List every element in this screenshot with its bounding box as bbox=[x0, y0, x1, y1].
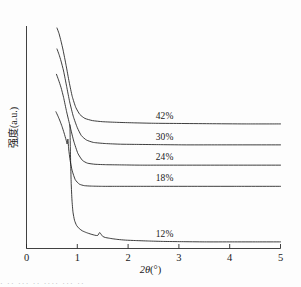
data-curve bbox=[70, 125, 281, 242]
x-axis-label-unit: (°) bbox=[150, 264, 161, 275]
series-label-24pct: 24% bbox=[156, 152, 174, 162]
x-tick-label: 4 bbox=[220, 252, 240, 264]
data-curve bbox=[57, 28, 281, 124]
x-axis-label-symbol: 2θ bbox=[140, 264, 150, 275]
y-axis-label: 强度(a.u.) bbox=[5, 88, 20, 168]
x-tick-label: 5 bbox=[271, 252, 291, 264]
series-label-18pct: 18% bbox=[156, 173, 174, 183]
series-label-30pct: 30% bbox=[156, 132, 174, 142]
series-label-42pct: 42% bbox=[156, 111, 174, 121]
x-axis-label: 2θ(°) bbox=[0, 264, 301, 275]
x-tick-label: 2 bbox=[118, 252, 138, 264]
x-tick-label: 3 bbox=[169, 252, 189, 264]
data-curve bbox=[57, 49, 281, 145]
figure-container: 强度(a.u.) 2θ(°) 012345 42%30%24%18%12% · … bbox=[0, 0, 301, 287]
page-caption-fragment: · ·· ··· ·· ···· ··· ·· bbox=[0, 279, 301, 287]
series-label-12pct: 12% bbox=[156, 229, 174, 239]
plot-canvas bbox=[0, 0, 301, 287]
x-tick-label: 1 bbox=[67, 252, 87, 264]
x-tick-label: 0 bbox=[17, 252, 37, 264]
